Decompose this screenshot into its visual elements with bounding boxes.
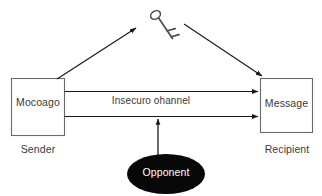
- diagram-canvas: Mocoago Message Insecuro ohannel Sender …: [0, 0, 322, 196]
- key-icon: [149, 9, 179, 39]
- sender-box-label: Mocoago: [11, 96, 65, 108]
- recipient-box-label: Message: [260, 97, 313, 109]
- opponent-label: Opponent: [128, 166, 204, 178]
- key-to-recipient-arrow: [184, 24, 262, 76]
- insecure-channel-label: Insecuro ohannel: [95, 95, 207, 106]
- recipient-caption: Recipient: [256, 143, 318, 155]
- sender-caption: Sender: [8, 143, 68, 155]
- sender-to-key-arrow: [57, 28, 136, 79]
